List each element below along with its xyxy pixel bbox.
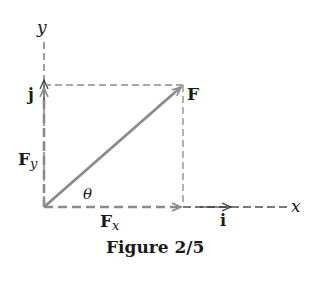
fx-label: Fx (100, 211, 120, 233)
fy-label: Fy (18, 149, 38, 171)
figure-caption: Figure 2/5 (106, 237, 204, 257)
j-label: j (26, 85, 34, 104)
theta-label: θ (83, 185, 92, 203)
f-label: F (187, 84, 199, 104)
y-axis-label: y (36, 17, 47, 37)
x-axis-label: x (291, 196, 301, 216)
f-vector (44, 87, 181, 207)
vector-components-diagram: y x j i F Fy Fx θ Figure 2/5 (0, 0, 314, 283)
i-label: i (220, 211, 226, 230)
